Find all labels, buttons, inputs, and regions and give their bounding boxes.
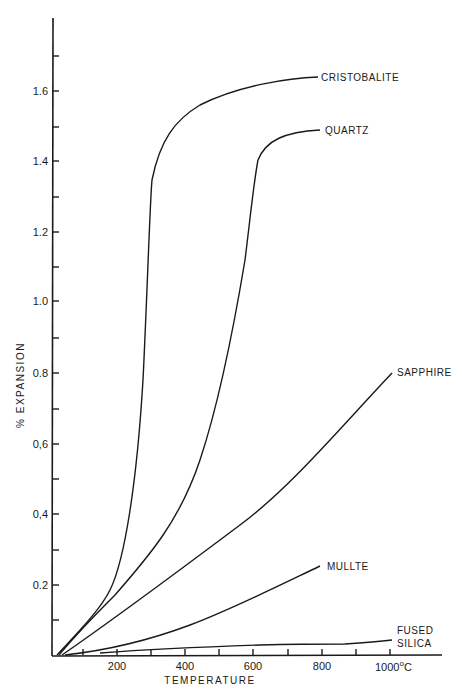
- y-axis-title: % EXPANSION: [15, 342, 26, 428]
- label-fused-silica-line1: FUSED: [397, 625, 433, 636]
- label-quartz: QUARTZ: [325, 125, 369, 136]
- label-sapphire: SAPPHIRE: [397, 367, 452, 378]
- x-axis: [52, 655, 442, 656]
- x-axis-title: TEMPERATURE: [164, 675, 255, 686]
- x-tick-600: 600: [244, 660, 262, 672]
- x-tick-200: 200: [108, 660, 126, 672]
- x-axis-ticks: [83, 649, 390, 655]
- y-tick-0-2: 0.2: [33, 579, 48, 591]
- y-tick-0-6: 0,6: [33, 438, 48, 450]
- x-tick-800: 800: [313, 660, 331, 672]
- series-cristobalite-curve: [57, 77, 318, 655]
- y-axis-tick-labels: 0.2 0,4 0,6 0.8 1.0 1.2 1.4 1.6: [33, 85, 48, 591]
- y-tick-0-4: 0,4: [33, 508, 48, 520]
- y-tick-1-6: 1.6: [33, 85, 48, 97]
- x-tick-1000: 1000oC: [375, 659, 412, 673]
- x-axis-tick-labels: 200 400 600 800 1000oC: [108, 659, 412, 673]
- y-tick-1-4: 1.4: [33, 155, 48, 167]
- y-tick-1-2: 1.2: [33, 226, 48, 238]
- y-axis: [52, 18, 53, 656]
- series-mullite-curve: [65, 566, 320, 655]
- y-tick-1-0: 1.0: [33, 295, 48, 307]
- series-quartz-curve: [59, 130, 320, 655]
- label-mullite: MULLTE: [327, 561, 369, 572]
- x-tick-400: 400: [176, 660, 194, 672]
- series-sapphire-curve: [62, 373, 392, 655]
- label-cristobalite: CRISTOBALITE: [321, 72, 399, 83]
- series-fused-silica-curve: [100, 640, 392, 653]
- y-axis-ticks: [53, 56, 59, 620]
- expansion-chart: 0.2 0,4 0,6 0.8 1.0 1.2 1.4 1.6 200 400 …: [0, 0, 462, 691]
- label-fused-silica-line2: SILICA: [397, 638, 432, 649]
- y-tick-0-8: 0.8: [33, 367, 48, 379]
